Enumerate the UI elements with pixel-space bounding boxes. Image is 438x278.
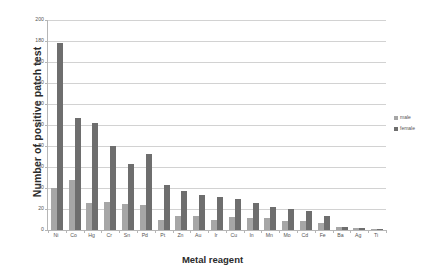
bar-group: [155, 20, 173, 230]
bar-female-in: [253, 203, 259, 230]
bar-group: [333, 20, 351, 230]
x-axis-tick-label-ni: Ni: [47, 233, 65, 238]
bar-group: [48, 20, 66, 230]
legend-swatch-icon: [394, 116, 398, 120]
plot-area: 020406080100120140160180200: [47, 20, 386, 231]
legend-swatch-icon: [394, 127, 398, 131]
bar-group: [173, 20, 191, 230]
legend-label: male: [400, 115, 411, 120]
y-axis-tick-label: 160: [35, 59, 44, 64]
x-axis-tick-label-zn: Zn: [172, 233, 190, 238]
bar-female-ir: [217, 197, 223, 230]
y-axis-tick-label: 120: [35, 101, 44, 106]
bar-female-ti: [377, 229, 383, 230]
bar-group: [101, 20, 119, 230]
bar-group: [208, 20, 226, 230]
bar-group: [84, 20, 102, 230]
bar-female-ni: [57, 43, 63, 230]
bar-female-mn: [270, 207, 276, 230]
y-axis-tick-label: 0: [41, 227, 44, 232]
bar-group: [244, 20, 262, 230]
y-axis-tick-label: 60: [38, 164, 44, 169]
bar-female-ag: [359, 228, 365, 230]
bar-female-pt: [164, 185, 170, 230]
bar-female-mo: [288, 209, 294, 230]
y-axis-tick-label: 100: [35, 122, 44, 127]
bar-female-cr: [110, 146, 116, 230]
bar-group: [190, 20, 208, 230]
y-axis-tick-label: 180: [35, 38, 44, 43]
bar-group: [315, 20, 333, 230]
bar-chart: Number of positive patch test 0204060801…: [0, 0, 438, 278]
x-axis-tick-label-ag: Ag: [349, 233, 367, 238]
bar-female-cu: [235, 199, 241, 231]
bar-group: [261, 20, 279, 230]
bar-female-fe: [324, 216, 330, 230]
x-axis-tick-label-fe: Fe: [314, 233, 332, 238]
x-axis-tick-label-cd: Cd: [296, 233, 314, 238]
bar-female-ba: [342, 227, 348, 230]
bar-group: [350, 20, 368, 230]
bar-group: [66, 20, 84, 230]
bar-female-cd: [306, 211, 312, 230]
y-axis-tick-label: 140: [35, 80, 44, 85]
bar-female-zn: [181, 191, 187, 230]
bar-female-pd: [146, 154, 152, 230]
x-axis-tick-label-ba: Ba: [332, 233, 350, 238]
bar-group: [279, 20, 297, 230]
bar-female-hg: [92, 123, 98, 230]
bar-group: [226, 20, 244, 230]
legend-item-female[interactable]: female: [394, 126, 415, 131]
bar-female-au: [199, 195, 205, 230]
y-axis-tick-label: 20: [38, 206, 44, 211]
x-axis-tick-label-in: In: [243, 233, 261, 238]
x-axis-tick-label-mo: Mo: [278, 233, 296, 238]
legend-item-male[interactable]: male: [394, 115, 415, 120]
y-axis-tick-label: 80: [38, 143, 44, 148]
bar-group: [297, 20, 315, 230]
x-axis-title: Metal reagent: [40, 254, 385, 265]
bar-female-sn: [128, 164, 134, 230]
bar-female-co: [75, 118, 81, 230]
x-axis-tick-label-au: Au: [189, 233, 207, 238]
x-axis-tick-label-cu: Cu: [225, 233, 243, 238]
bar-group: [368, 20, 386, 230]
x-axis-tick-label-cr: Cr: [100, 233, 118, 238]
x-axis-tick-label-hg: Hg: [83, 233, 101, 238]
x-axis-tick-label-co: Co: [65, 233, 83, 238]
bar-group: [119, 20, 137, 230]
x-axis-tick-label-sn: Sn: [118, 233, 136, 238]
x-axis-tick-label-pd: Pd: [136, 233, 154, 238]
x-axis-tick-label-mn: Mn: [260, 233, 278, 238]
x-axis-tick-label-pt: Pt: [154, 233, 172, 238]
y-axis-tick-label: 40: [38, 185, 44, 190]
x-axis-tick-mark: [386, 230, 387, 233]
chart-legend: malefemale: [394, 115, 415, 137]
y-axis-tick-label: 200: [35, 17, 44, 22]
x-axis-tick-label-ir: Ir: [207, 233, 225, 238]
legend-label: female: [400, 126, 415, 131]
x-axis-tick-label-ti: Ti: [367, 233, 385, 238]
bar-group: [137, 20, 155, 230]
